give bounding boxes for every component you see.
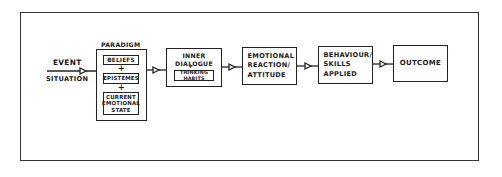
plus-sign: + [118, 65, 125, 73]
outcome-label: OUTCOME [400, 58, 441, 68]
event-label: EVENT [53, 58, 82, 67]
current-emotional-state-box: CURRENT EMOTIONAL STATE [103, 92, 139, 115]
behaviour-box: BEHAVIOUR/ SKILLS APPLIED [318, 46, 373, 84]
flow-connectors [0, 0, 502, 177]
plus-sign: + [188, 63, 193, 69]
emotional-reaction-label: EMOTIONAL REACTION/ ATTITUDE [248, 52, 292, 81]
behaviour-label: BEHAVIOUR/ SKILLS APPLIED [324, 51, 368, 80]
plus-sign: + [118, 84, 125, 92]
paradigm-title: PARADIGM [101, 41, 140, 49]
thinking-habits-box: THINKING HABITS [174, 70, 214, 81]
inner-dialogue-title: INNER DIALOGUE [166, 52, 222, 68]
emotional-reaction-box: EMOTIONAL REACTION/ ATTITUDE [242, 47, 297, 85]
situation-label: SITUATION [46, 75, 88, 83]
outcome-box: OUTCOME [393, 45, 448, 82]
